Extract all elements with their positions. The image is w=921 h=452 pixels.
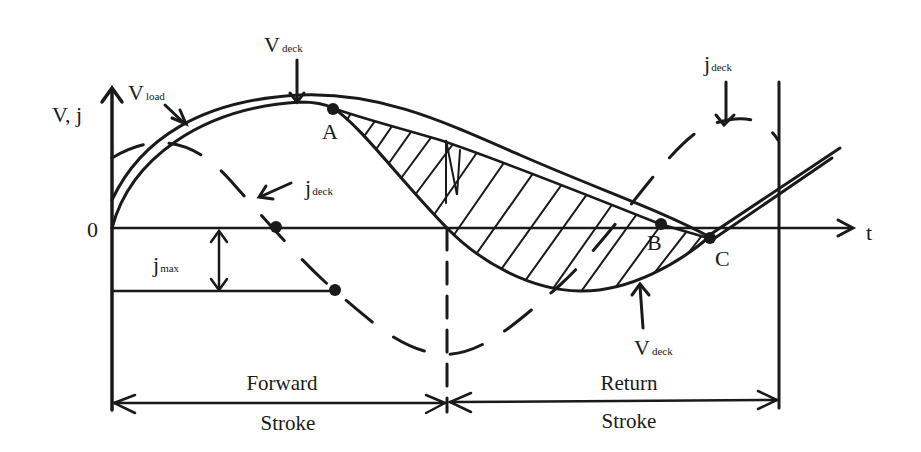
return-stroke-arrow	[450, 400, 777, 402]
point-b-label: B	[647, 230, 662, 255]
forward-stroke-label-bottom: Stroke	[261, 411, 316, 435]
point-a-dot	[327, 103, 339, 115]
t-axis-label: t	[866, 220, 872, 245]
v-deck-top-label: Vdeck	[264, 32, 303, 57]
return-stroke-label-top: Return	[600, 371, 658, 395]
j-max-dot	[329, 284, 341, 296]
point-c-label: C	[715, 246, 730, 271]
point-a-label: A	[322, 119, 338, 144]
point-c-dot	[704, 232, 716, 244]
velocity-jerk-stroke-diagram: V, j t 0 Vload Vdeck jdeck jdeck jmax Vd…	[0, 0, 921, 452]
origin-label: 0	[87, 217, 98, 242]
v-load-curve	[112, 95, 840, 236]
j-deck-zero-dot	[270, 221, 282, 233]
return-stroke-label-bottom: Stroke	[602, 409, 657, 433]
v-deck-upper-line	[333, 108, 708, 238]
hatched-region	[320, 100, 730, 300]
j-deck-right-label: jdeck	[703, 51, 732, 76]
v-deck-bottom-label: Vdeck	[634, 335, 673, 360]
forward-stroke-label-top: Forward	[246, 371, 318, 395]
v-deck-bottom-pointer	[640, 286, 643, 328]
y-axis-label: V, j	[52, 102, 82, 127]
j-max-label: jmax	[152, 252, 180, 277]
j-deck-left-label: jdeck	[304, 175, 333, 200]
v-load-label: Vload	[128, 80, 165, 105]
point-b-dot	[655, 218, 667, 230]
